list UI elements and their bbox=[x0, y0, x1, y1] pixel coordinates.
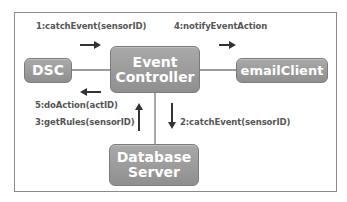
node-email-client-label: emailClient bbox=[241, 64, 324, 78]
arrow-left-5 bbox=[80, 88, 101, 96]
node-database-server-line1: Database bbox=[117, 150, 192, 165]
arrow-up-3 bbox=[135, 103, 143, 131]
message-4-label: 4:notifyEventAction bbox=[174, 21, 267, 31]
arrow-right-4 bbox=[219, 41, 236, 49]
message-3-label: 3:getRules(sensorID) bbox=[35, 117, 135, 127]
node-database-server-line2: Server bbox=[128, 165, 180, 180]
message-1-label: 1:catchEvent(sensorID) bbox=[36, 21, 146, 31]
arrow-right-1 bbox=[80, 41, 101, 49]
node-event-controller-line1: Event bbox=[133, 55, 178, 70]
message-2-label: 2:catchEvent(sensorID) bbox=[180, 117, 290, 127]
arrow-down-2 bbox=[168, 103, 176, 129]
node-event-controller[interactable]: Event Controller bbox=[110, 46, 200, 93]
node-dsc[interactable]: DSC bbox=[24, 58, 72, 83]
node-event-controller-line2: Controller bbox=[115, 70, 194, 85]
message-5-label: 5:doAction(actID) bbox=[35, 100, 118, 110]
node-database-server[interactable]: Database Server bbox=[109, 144, 199, 186]
node-email-client[interactable]: emailClient bbox=[236, 58, 328, 83]
node-dsc-label: DSC bbox=[32, 63, 64, 78]
